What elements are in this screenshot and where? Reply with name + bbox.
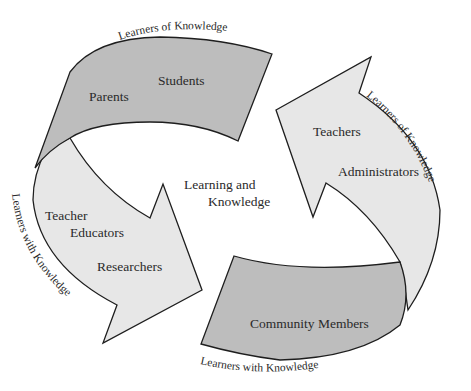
label-community-members: Community Members: [250, 316, 369, 331]
label-researchers: Researchers: [97, 259, 162, 274]
center-label-line1: Learning and: [184, 177, 256, 192]
segment-bottom-band: [201, 256, 406, 360]
label-teachers: Teachers: [313, 124, 361, 139]
label-students: Students: [158, 73, 205, 88]
learning-cycle-diagram: Parents Students Teachers Administrators…: [0, 0, 471, 391]
label-teacher: Teacher: [45, 208, 88, 223]
segment-left-arrow: [33, 138, 202, 343]
center-label-line2: Knowledge: [208, 194, 270, 209]
label-parents: Parents: [89, 89, 129, 104]
label-administrators: Administrators: [338, 164, 419, 179]
label-educators: Educators: [70, 225, 124, 240]
